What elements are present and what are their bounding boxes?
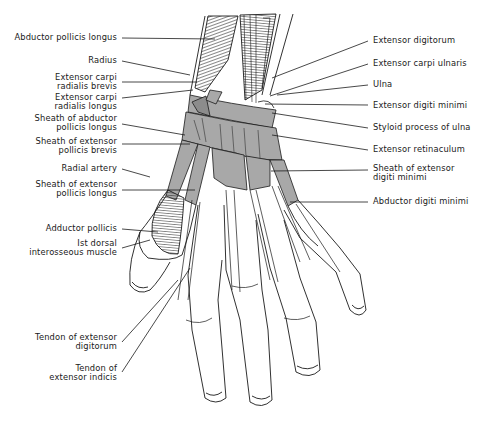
leader-line-tendon-of-extensor-digitorum — [122, 280, 178, 342]
label-text: radialis longus — [55, 102, 117, 111]
label-sheath-of-extensor-pollicis-longus: Sheath of extensorpollicis longus — [36, 180, 118, 199]
label-text: Extensor retinaculum — [373, 145, 465, 154]
label-adductor-pollicis: Adductor pollicis — [46, 224, 117, 233]
anatomy-figure: Abductor pollicis longusRadiusExtensor c… — [0, 0, 486, 424]
label-text: interosseous muscle — [29, 248, 117, 257]
leader-line-radius — [122, 61, 190, 75]
label-sheath-of-extensor-pollicis-brevis: Sheath of extensorpollicis brevis — [36, 137, 118, 156]
middle-finger — [224, 205, 272, 406]
label-text: Radius — [88, 56, 117, 65]
label-text: pollicis brevis — [36, 146, 118, 155]
first-dorsal-interosseous — [152, 190, 184, 254]
label-text: Radial artery — [62, 164, 117, 173]
leader-line-extensor-carpi-ulnaris — [270, 64, 368, 96]
hand-and-fingers — [130, 186, 366, 406]
label-extensor-digiti-minimi: Extensor digiti minimi — [373, 101, 467, 110]
label-extensor-retinaculum: Extensor retinaculum — [373, 145, 465, 154]
label-sheath-of-extensor-digiti-minimi: Sheath of extensordigiti minimi — [373, 164, 455, 183]
label-first-dorsal-interosseous-muscle: Ist dorsalinterosseous muscle — [29, 239, 117, 258]
label-text: extensor indicis — [49, 373, 117, 382]
label-extensor-carpi-radialis-brevis: Extensor carpiradialis brevis — [55, 73, 117, 92]
label-extensor-carpi-radialis-longus: Extensor carpiradialis longus — [55, 93, 117, 112]
leader-line-extensor-digitorum — [272, 41, 368, 78]
label-extensor-digitorum: Extensor digitorum — [373, 36, 455, 45]
label-tendon-of-extensor-digitorum: Tendon of extensordigitorum — [35, 333, 117, 352]
leader-line-styloid-process-of-ulna — [272, 113, 368, 128]
thumb-nail — [132, 282, 148, 288]
label-text: Extensor digitorum — [373, 36, 455, 45]
label-text: radialis brevis — [55, 82, 117, 91]
label-text: pollicis longus — [35, 123, 117, 132]
label-text: Adductor pollicis — [46, 224, 117, 233]
label-text: pollicis longus — [36, 189, 118, 198]
abductor-pollicis-longus-muscle — [195, 16, 238, 92]
label-text: Abductor pollicis longus — [14, 33, 117, 42]
label-text: Ulna — [373, 80, 392, 89]
label-text: Abductor digiti minimi — [373, 197, 468, 206]
leader-line-ulna — [277, 85, 368, 95]
label-abductor-pollicis-longus: Abductor pollicis longus — [14, 33, 117, 42]
index-finger — [188, 205, 226, 402]
label-text: Extensor carpi ulnaris — [373, 59, 467, 68]
leader-line-sheath-of-abductor-pollicis-longus — [122, 124, 185, 135]
label-tendon-of-extensor-indicis: Tendon ofextensor indicis — [49, 364, 117, 383]
little-finger — [284, 200, 366, 315]
label-text: digitorum — [35, 342, 117, 351]
label-abductor-digiti-minimi: Abductor digiti minimi — [373, 197, 468, 206]
label-sheath-of-abductor-pollicis-longus: Sheath of abductorpollicis longus — [35, 114, 117, 133]
leader-line-extensor-retinaculum — [272, 135, 368, 150]
label-styloid-process-of-ulna: Styloid process of ulna — [373, 123, 471, 132]
label-text: Extensor digiti minimi — [373, 101, 467, 110]
label-text: Styloid process of ulna — [373, 123, 471, 132]
label-radius: Radius — [88, 56, 117, 65]
label-ulna: Ulna — [373, 80, 392, 89]
leader-line-extensor-carpi-radialis-longus — [122, 90, 193, 98]
leader-line-radial-artery — [122, 169, 150, 177]
label-text: digiti minimi — [373, 173, 455, 182]
label-extensor-carpi-ulnaris: Extensor carpi ulnaris — [373, 59, 467, 68]
forearm — [190, 14, 293, 103]
label-radial-artery: Radial artery — [62, 164, 117, 173]
leader-line-extensor-digiti-minimi — [265, 104, 368, 105]
retinaculum-and-sheaths — [166, 90, 298, 206]
